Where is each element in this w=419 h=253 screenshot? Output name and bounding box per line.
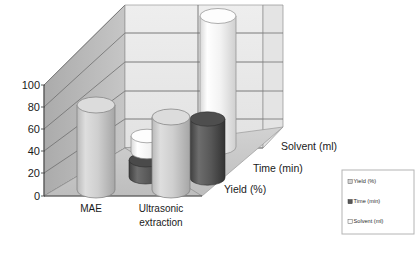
category-label-mae: MAE [80,203,102,214]
bar-mae-yield[interactable] [77,97,115,198]
depth-label-yield: Yield (%) [224,183,266,195]
y-tick-label: 60 [28,123,40,135]
bar-ultrasonic-time[interactable] [190,112,225,185]
category-labels: MAE Ultrasonic extraction [80,203,183,228]
right-wall [263,5,283,148]
y-tick-label: 80 [28,101,40,113]
legend-label-solvent: Solvent (ml) [354,218,384,224]
bar-cap [152,109,190,125]
bar-cap [190,112,225,126]
legend-swatch-time [348,200,352,204]
y-tick-label: 100 [22,79,40,91]
legend-item-yield[interactable]: Yield (%) [348,178,376,184]
chart-container: 100 80 60 40 20 0 MAE Ultrasonic extract… [0,0,419,253]
legend-label-yield: Yield (%) [354,178,377,184]
legend-label-time: Time (min) [354,198,381,204]
cylinder-3d-chart: 100 80 60 40 20 0 MAE Ultrasonic extract… [0,0,419,253]
legend-swatch-solvent [348,220,352,224]
legend-item-solvent[interactable]: Solvent (ml) [348,218,384,224]
legend-item-time[interactable]: Time (min) [348,198,380,204]
y-tick-label: 20 [28,167,40,179]
depth-label-time: Time (min) [253,162,303,174]
legend: Yield (%) Time (min) Solvent (ml) [342,170,414,234]
category-label-ultrasonic-line1: Ultrasonic [139,203,183,214]
y-tick-label: 40 [28,145,40,157]
y-axis-tick-labels: 100 80 60 40 20 0 [22,79,45,202]
legend-swatch-yield [348,180,352,184]
bar-cap [200,9,236,24]
bar-cap [77,97,115,113]
category-label-ultrasonic-line2: extraction [139,217,182,228]
depth-label-solvent: Solvent (ml) [281,140,337,152]
y-tick-label: 0 [34,190,40,202]
bar-ultrasonic-yield[interactable] [152,109,190,198]
